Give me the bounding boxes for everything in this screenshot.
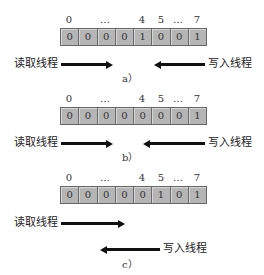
bit-cell: 0: [98, 187, 116, 203]
bit-cell: 1: [189, 29, 206, 45]
bit-cell: 0: [79, 29, 97, 45]
bit-cell: 0: [116, 108, 134, 124]
index-label-5: 5: [152, 173, 170, 183]
bit-cell: 0: [171, 29, 189, 45]
bit-cell: 1: [189, 187, 206, 203]
index-label-4: 4: [133, 15, 151, 25]
panel-b: 0 … 4 5 … 7 0 0 0 0 0 0 0 1 读取线程 写入线程 b）: [0, 79, 264, 169]
index-label-5: 5: [152, 94, 170, 104]
bit-cell: 1: [134, 29, 152, 45]
index-label-7: 7: [188, 173, 206, 183]
bit-array: 0 0 0 0 0 0 0 1: [60, 107, 207, 125]
bit-cell: 1: [189, 108, 206, 124]
bit-array: 0 0 0 0 0 1 0 1: [60, 186, 207, 204]
bit-cell: 0: [98, 29, 116, 45]
write-arrow-icon: [106, 248, 160, 251]
index-label-ellipsis-2: …: [169, 173, 187, 183]
write-arrow-icon: [160, 63, 205, 66]
bit-cell: 0: [134, 108, 152, 124]
read-arrow-icon: [61, 142, 107, 145]
bit-cell: 0: [79, 187, 97, 203]
bit-cell: 1: [152, 187, 170, 203]
read-thread-label: 读取线程: [14, 137, 58, 149]
index-label-0: 0: [60, 94, 78, 104]
index-label-7: 7: [188, 15, 206, 25]
write-thread-label: 写入线程: [163, 243, 207, 255]
bit-cell: 0: [116, 187, 134, 203]
panel-caption: c）: [122, 260, 138, 270]
index-label-0: 0: [60, 15, 78, 25]
index-label-ellipsis-1: …: [96, 173, 114, 183]
panel-c: 0 … 4 5 … 7 0 0 0 0 0 1 0 1 读取线程 写入线程 c）: [0, 158, 264, 275]
index-label-5: 5: [152, 15, 170, 25]
bit-cell: 0: [171, 108, 189, 124]
read-arrow-icon: [61, 222, 119, 225]
bit-array: 0 0 0 0 1 0 0 1: [60, 28, 207, 46]
write-thread-label: 写入线程: [208, 58, 252, 70]
index-label-ellipsis-1: …: [96, 15, 114, 25]
write-arrow-icon: [149, 142, 205, 145]
read-thread-label: 读取线程: [14, 58, 58, 70]
write-thread-label: 写入线程: [208, 137, 252, 149]
read-arrow-icon: [61, 63, 107, 66]
bit-cell: 0: [61, 29, 79, 45]
bit-cell: 0: [152, 108, 170, 124]
bit-cell: 0: [134, 187, 152, 203]
read-thread-label: 读取线程: [14, 217, 58, 229]
bit-cell: 0: [79, 108, 97, 124]
panel-a: 0 … 4 5 … 7 0 0 0 0 1 0 0 1 读取线程 写入线程 a）: [0, 0, 264, 90]
bit-cell: 0: [171, 187, 189, 203]
index-label-7: 7: [188, 94, 206, 104]
bit-cell: 0: [61, 108, 79, 124]
bit-cell: 0: [61, 187, 79, 203]
index-label-4: 4: [133, 94, 151, 104]
index-label-ellipsis-2: …: [169, 94, 187, 104]
bit-cell: 0: [152, 29, 170, 45]
bit-cell: 0: [116, 29, 134, 45]
index-label-4: 4: [133, 173, 151, 183]
index-label-ellipsis-2: …: [169, 15, 187, 25]
index-label-ellipsis-1: …: [96, 94, 114, 104]
index-label-0: 0: [60, 173, 78, 183]
bit-cell: 0: [98, 108, 116, 124]
